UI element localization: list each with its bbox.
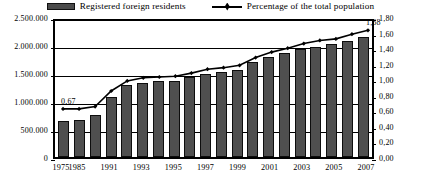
x-axis-tick-label: 1975 <box>52 164 69 172</box>
tick-mark <box>372 67 376 68</box>
y-axis-left-tick-label: 500.000 <box>21 127 48 135</box>
bar <box>263 57 274 157</box>
chart-container: Registered foreign residents Percentage … <box>0 0 421 188</box>
bar <box>58 121 69 157</box>
tick-mark <box>372 113 376 114</box>
y-axis-left-tick-label: 1.000.000 <box>14 99 48 107</box>
y-axis-left-tick-label: 2.000.000 <box>14 43 48 51</box>
y-axis-right-tick-label: 0,60 <box>379 108 394 116</box>
bar <box>121 85 132 157</box>
y-axis-right-tick-label: 1,00 <box>379 77 394 85</box>
legend-entry-line: Percentage of the total population <box>212 2 374 11</box>
plot-area: 0,671,68 <box>53 19 374 159</box>
tick-mark <box>372 82 376 83</box>
y-axis-right-tick-label: 1,60 <box>379 31 394 39</box>
x-axis-tick-label: 1991 <box>101 164 118 172</box>
tick-mark <box>372 129 376 130</box>
bar <box>184 77 195 157</box>
y-axis-right-tick-label: 0,00 <box>379 155 394 163</box>
x-axis-tick-label: 1995 <box>165 164 182 172</box>
bar-swatch-icon <box>47 3 75 10</box>
bar <box>153 81 164 157</box>
x-axis-labels: 1975198519911993199519971999200120032005… <box>53 164 374 178</box>
chart-legend: Registered foreign residents Percentage … <box>0 2 421 11</box>
x-axis-tick-label: 2007 <box>357 164 374 172</box>
y-axis-left-tick-label: 2.500.000 <box>14 15 48 23</box>
y-axis-right-tick-label: 1,20 <box>379 62 394 70</box>
bar <box>310 47 321 157</box>
legend-label-line: Percentage of the total population <box>247 2 374 11</box>
bar <box>342 41 353 157</box>
y-axis-left-tick-label: 0 <box>44 155 48 163</box>
bar-series <box>55 21 372 157</box>
bar <box>216 72 227 157</box>
x-axis-tick-label: 1997 <box>197 164 214 172</box>
y-axis-right-tick-label: 0,40 <box>379 124 394 132</box>
x-axis-tick-label: 2005 <box>325 164 342 172</box>
bar <box>279 53 290 157</box>
point-annotation-label: 0,67 <box>61 98 76 106</box>
line-marker-icon <box>212 3 242 11</box>
x-axis-tick-label: 2003 <box>293 164 310 172</box>
bar <box>74 120 85 157</box>
legend-label-bars: Registered foreign residents <box>80 2 186 11</box>
bar <box>106 97 117 157</box>
tick-mark <box>372 98 376 99</box>
bar <box>232 70 243 157</box>
bar <box>326 44 337 157</box>
bar <box>247 62 258 157</box>
x-axis-tick-label: 1999 <box>229 164 246 172</box>
bar <box>358 37 369 157</box>
point-annotation-label: 1,68 <box>366 19 381 27</box>
bar <box>295 49 306 157</box>
bar <box>137 83 148 157</box>
x-axis-tick-label: 2001 <box>261 164 278 172</box>
y-axis-right-tick-label: 1,40 <box>379 46 394 54</box>
bar <box>169 81 180 157</box>
y-axis-right-tick-label: 0,80 <box>379 93 394 101</box>
tick-mark <box>372 51 376 52</box>
y-axis-left-tick-label: 1.500.000 <box>14 71 48 79</box>
bar <box>200 74 211 157</box>
y-axis-right-tick-label: 0,20 <box>379 139 394 147</box>
legend-entry-bars: Registered foreign residents <box>47 2 186 11</box>
y-axis-right-tick-label: 1,80 <box>379 15 394 23</box>
tick-mark <box>372 36 376 37</box>
bar <box>90 115 101 157</box>
x-axis-tick-label: 1985 <box>68 164 85 172</box>
tick-mark <box>372 144 376 145</box>
x-axis-tick-label: 1993 <box>133 164 150 172</box>
tick-mark <box>372 160 376 161</box>
tick-mark <box>51 160 55 161</box>
